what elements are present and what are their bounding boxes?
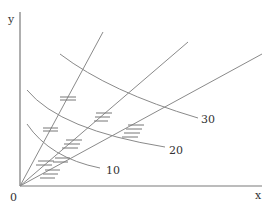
ticks-steep-ray — [43, 97, 76, 131]
x-axis-label: x — [255, 189, 262, 202]
curve-label-20: 20 — [169, 144, 183, 157]
ray-shallow — [20, 54, 262, 186]
curve-label-30: 30 — [201, 113, 215, 126]
curve-10 — [27, 124, 100, 168]
origin-label: 0 — [10, 191, 17, 204]
ticks-medium-ray — [36, 113, 112, 165]
diagram-canvas: y x 0 10 20 30 — [0, 0, 270, 208]
ray-medium — [20, 42, 188, 186]
curve-label-10: 10 — [106, 164, 120, 177]
y-axis-label: y — [7, 13, 15, 26]
curve-30 — [60, 54, 198, 118]
